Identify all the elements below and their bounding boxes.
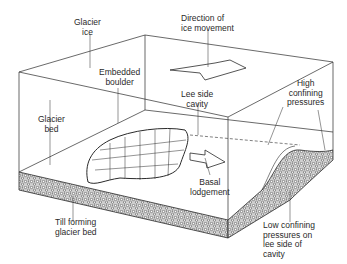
label-glacier-ice: Glacier ice bbox=[74, 18, 101, 37]
lodgement-arrow bbox=[190, 150, 225, 168]
label-embedded-boulder: Embedded boulder bbox=[99, 68, 140, 87]
label-low-confining-pressures: Low confining pressures on lee side of c… bbox=[263, 221, 315, 259]
label-basal-lodgement: Basal lodgement bbox=[190, 178, 230, 197]
label-direction-of-ice-movement: Direction of ice movement bbox=[181, 14, 234, 33]
label-glacier-bed: Glacier bed bbox=[38, 115, 65, 134]
label-high-confining-pressures: High confining pressures bbox=[287, 79, 324, 108]
embedded-boulder bbox=[87, 128, 188, 183]
label-lee-side-cavity: Lee side cavity bbox=[181, 90, 213, 109]
label-till-forming-glacier-bed: Till forming glacier bed bbox=[55, 218, 97, 237]
